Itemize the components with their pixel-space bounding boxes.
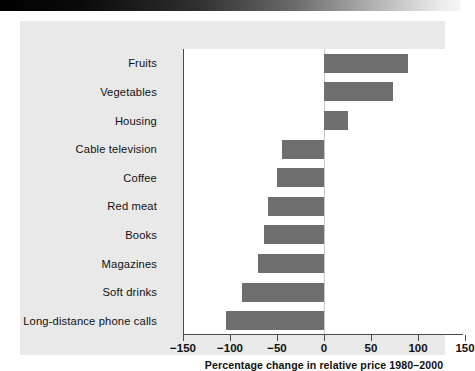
category-label: Fruits — [128, 57, 157, 69]
x-tick-label: 100 — [408, 342, 427, 354]
category-label: Cable television — [76, 143, 157, 155]
figure-panel: FruitsVegetablesHousingCable televisionC… — [20, 21, 445, 355]
x-tick-label: −150 — [170, 342, 196, 354]
x-tick-label: 50 — [365, 342, 378, 354]
category-label: Housing — [115, 115, 157, 127]
x-tick-mark — [183, 335, 184, 341]
bar — [277, 168, 324, 187]
x-axis-line — [183, 334, 463, 335]
x-tick-label: −50 — [267, 342, 287, 354]
bar — [324, 111, 348, 130]
x-tick-mark — [418, 335, 419, 341]
bar — [282, 140, 324, 159]
x-tick-label: −100 — [217, 342, 243, 354]
bar — [268, 197, 324, 216]
category-label: Coffee — [123, 172, 157, 184]
bar — [324, 54, 408, 73]
x-tick-mark — [277, 335, 278, 341]
bar — [264, 225, 324, 244]
bar — [226, 311, 324, 330]
x-tick-mark — [465, 335, 466, 341]
bar — [258, 254, 324, 273]
category-label: Magazines — [102, 258, 157, 270]
category-label: Books — [125, 229, 157, 241]
bar — [324, 82, 393, 101]
x-tick-mark — [371, 335, 372, 341]
x-tick-label: 0 — [321, 342, 327, 354]
y-axis-line — [183, 49, 184, 335]
category-label: Vegetables — [100, 86, 157, 98]
x-tick-mark — [324, 335, 325, 341]
x-tick-label: 150 — [455, 342, 474, 354]
x-tick-mark — [230, 335, 231, 341]
category-axis-labels: FruitsVegetablesHousingCable televisionC… — [20, 21, 157, 355]
page-header-band — [0, 0, 460, 11]
category-label: Red meat — [107, 200, 157, 212]
x-axis-title: Percentage change in relative price 1980… — [183, 359, 465, 371]
category-label: Long-distance phone calls — [23, 315, 157, 327]
bar — [242, 283, 324, 302]
category-label: Soft drinks — [102, 286, 157, 298]
